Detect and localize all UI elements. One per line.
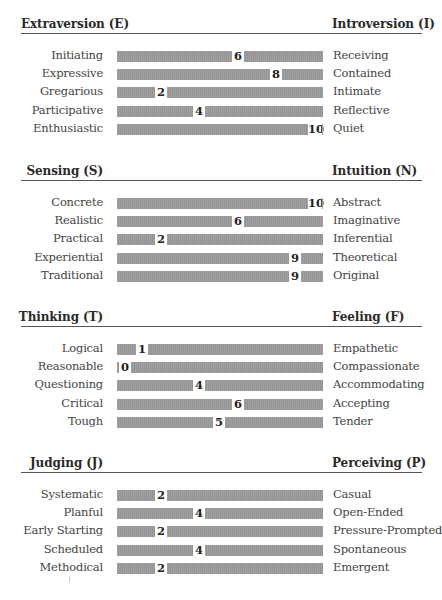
right-trait-label: Original [333,268,379,282]
bar-segment-left [117,417,213,428]
score-value: 6 [232,214,244,228]
score-value: 1 [136,342,148,356]
score-bar: 2 [117,563,323,574]
right-trait-label: Open-Ended [333,505,403,519]
left-trait-label: Participative [32,103,103,117]
score-bar: 10 [117,124,323,135]
left-trait-label: Reasonable [38,359,103,373]
right-trait-label: Imaginative [333,213,400,227]
bar-segment-right [167,526,323,537]
bar-segment-left [117,545,193,556]
right-trait-label: Contained [333,66,391,80]
left-trait-label: Tough [68,414,103,428]
bar-segment-right [244,216,323,227]
bar-segment-right [244,399,323,410]
right-trait-label: Inferential [333,231,392,245]
bar-segment-left [117,51,232,62]
right-trait-label: Emergent [333,560,389,574]
scale-row: Traditional9Original [0,269,439,285]
scale-row: Enthusiastic10Quiet [0,122,439,138]
score-value: 6 [232,49,244,63]
score-bar: 2 [117,526,323,537]
bar-segment-right [225,417,323,428]
scale-row: Practical2Inferential [0,232,439,248]
left-trait-label: Gregarious [40,84,103,98]
bar-segment-right [167,87,323,98]
bar-segment-left [117,216,232,227]
scale-row: Initiating6Receiving [0,49,439,65]
score-bar: 2 [117,490,323,501]
bar-segment-left [117,380,193,391]
bar-segment-left [117,253,289,264]
score-bar: 5 [117,417,323,428]
score-bar: 6 [117,216,323,227]
score-bar: 6 [117,399,323,410]
scale-row: Early Starting2Pressure-Prompted [0,524,439,540]
bar-segment-right [301,253,323,264]
score-bar: 4 [117,106,323,117]
right-trait-label: Casual [333,487,371,501]
right-trait-label: Quiet [333,121,364,135]
right-trait-label: Theoretical [333,250,397,264]
score-bar: 9 [117,253,323,264]
scan-artifact-mark [69,576,70,582]
bar-segment-left [117,563,155,574]
score-value: 2 [155,85,167,99]
scale-row: Concrete10Abstract [0,196,439,212]
bar-segment-right [282,69,323,80]
score-value: 10 [308,122,322,136]
bar-segment-left [117,271,289,282]
right-pole-header: Feeling (F) [332,310,404,324]
bar-segment-left [117,106,193,117]
score-value: 10 [308,196,322,210]
scale-row: Questioning4Accommodating [0,378,439,394]
bar-segment-right [205,106,323,117]
bar-segment-right [205,508,323,519]
score-bar: 4 [117,380,323,391]
left-trait-label: Scheduled [44,542,103,556]
score-bar: 1 [117,344,323,355]
bar-segment-right [148,344,323,355]
score-bar: 8 [117,69,323,80]
scale-row: Logical1Empathetic [0,342,439,358]
bar-segment-right [205,380,323,391]
left-trait-label: Practical [53,231,103,245]
left-trait-label: Traditional [41,268,103,282]
score-value: 5 [213,415,225,429]
right-trait-label: Tender [333,414,372,428]
left-trait-label: Systematic [41,487,103,501]
left-trait-label: Realistic [54,213,103,227]
score-bar: 2 [117,87,323,98]
left-pole-header: Thinking (T) [19,310,103,324]
left-trait-label: Planful [63,505,103,519]
right-trait-label: Reflective [333,103,389,117]
score-value: 2 [155,524,167,538]
right-trait-label: Spontaneous [333,542,406,556]
bar-segment-left [117,344,136,355]
score-bar: 2 [117,234,323,245]
bar-segment-right [167,234,323,245]
left-trait-label: Expressive [42,66,103,80]
score-value: 4 [193,378,205,392]
bar-segment-right [167,563,323,574]
bar-segment-right [301,271,323,282]
section-divider [21,472,422,473]
bar-segment-left [117,508,193,519]
score-value: 8 [270,67,282,81]
right-trait-label: Accepting [333,396,390,410]
score-value: 2 [155,232,167,246]
left-trait-label: Questioning [35,377,103,391]
score-bar: 9 [117,271,323,282]
left-trait-label: Logical [62,341,103,355]
bar-segment-left [117,87,155,98]
scale-row: Systematic2Casual [0,488,439,504]
scale-row: Planful4Open-Ended [0,506,439,522]
score-bar: 10 [117,198,323,209]
left-trait-label: Concrete [51,195,103,209]
score-value: 2 [155,488,167,502]
left-pole-header: Judging (J) [30,456,103,470]
scale-row: Critical6Accepting [0,397,439,413]
score-value: 2 [155,561,167,575]
bar-segment-left [117,526,155,537]
score-bar: 0 [117,362,323,373]
